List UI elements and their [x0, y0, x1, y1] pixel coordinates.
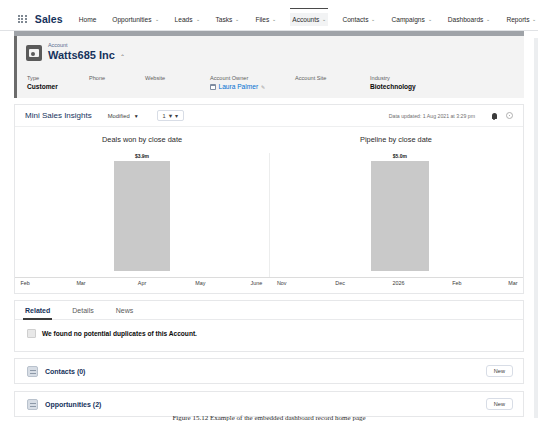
- nav-item-label: Tasks: [216, 16, 233, 23]
- insights-filter-button[interactable]: 1 ▼ ▾: [157, 110, 185, 121]
- x-tick: Mar: [76, 280, 85, 286]
- page-title: Watts685 Inc ⌃: [48, 49, 125, 64]
- field-value: Biotechnology: [370, 82, 460, 92]
- nav-item-label: Home: [79, 16, 97, 23]
- app-launcher-icon[interactable]: [18, 15, 27, 24]
- insights-title: Mini Sales Insights: [25, 111, 92, 120]
- nav-item-campaigns[interactable]: Campaigns ⌄: [389, 13, 433, 26]
- figure-caption: Figure 15.12 Example of the embedded das…: [0, 414, 538, 422]
- x-tick: Dec: [335, 280, 345, 286]
- chevron-down-icon: ▼: [134, 113, 139, 119]
- chart-pipeline-by-close-date[interactable]: Pipeline by close date $5.0m Nov Dec 202…: [269, 127, 523, 293]
- chevron-down-icon: ⌄: [322, 16, 326, 22]
- chevron-down-icon: ⌄: [371, 16, 375, 22]
- mini-sales-insights-panel: Mini Sales Insights Modified ▼ 1 ▼ ▾ Dat…: [14, 104, 524, 294]
- insights-sort-dropdown[interactable]: Modified ▼: [108, 113, 139, 119]
- record-highlight-fields: Type Customer Phone Website Account Owne…: [17, 64, 524, 92]
- chevron-down-icon: ⌄: [428, 16, 432, 22]
- insights-filter-count: 1: [163, 113, 166, 119]
- nav-item-reports[interactable]: Reports ⌄: [504, 13, 538, 26]
- bar-value-label: $3.9m: [114, 153, 170, 159]
- bell-icon[interactable]: [488, 110, 500, 122]
- nav-item-opportunities[interactable]: Opportunities ⌄: [110, 13, 160, 26]
- tab-label: Details: [72, 307, 93, 314]
- pencil-icon[interactable]: ✎: [261, 82, 265, 92]
- bar-2026[interactable]: $5.0m: [371, 161, 429, 271]
- nav-item-label: Contacts: [342, 16, 368, 23]
- tab-related[interactable]: Related: [25, 301, 50, 320]
- nav-item-leads[interactable]: Leads ⌄: [173, 13, 202, 26]
- x-tick: Feb: [21, 280, 30, 286]
- chart-title: Deals won by close date: [15, 135, 269, 144]
- field-label: Account Site: [295, 74, 370, 82]
- field-label: Type: [27, 74, 89, 82]
- x-tick: Apr: [138, 280, 146, 286]
- x-tick: Nov: [277, 280, 287, 286]
- account-owner-name[interactable]: Laura Palmer: [219, 82, 259, 92]
- nav-item-files[interactable]: Files ⌄: [253, 13, 278, 26]
- bar-apr[interactable]: $3.9m: [114, 161, 170, 271]
- chevron-down-icon: ▾: [175, 113, 178, 119]
- account-icon: [26, 45, 42, 61]
- field-label: Account Owner: [210, 74, 295, 82]
- chevron-down-icon: ⌄: [532, 16, 536, 22]
- field-type: Type Customer: [27, 74, 89, 92]
- tab-news[interactable]: News: [116, 301, 134, 320]
- record-header-top: Account Watts685 Inc ⌃: [17, 36, 524, 64]
- field-value: Customer: [27, 82, 89, 92]
- chevron-down-icon: ⌄: [486, 16, 490, 22]
- related-list-title[interactable]: Contacts (0): [45, 368, 85, 375]
- field-phone: Phone: [89, 74, 145, 92]
- axis-line: [15, 277, 269, 278]
- app-name[interactable]: Sales: [35, 13, 63, 25]
- nav-item-label: Dashboards: [448, 16, 484, 23]
- x-tick: June: [250, 280, 262, 286]
- nav-item-contacts[interactable]: Contacts ⌄: [340, 13, 377, 26]
- nav-item-home[interactable]: Home: [77, 13, 99, 26]
- record-type-label: Account: [48, 42, 125, 49]
- screenshot-root: Sales Home Opportunities ⌄ Leads ⌄ Tasks…: [0, 0, 538, 428]
- field-website: Website: [145, 74, 210, 92]
- nav-item-accounts[interactable]: Accounts ⌄: [290, 13, 328, 26]
- nav-item-label: Opportunities: [112, 16, 151, 23]
- chart-title: Pipeline by close date: [269, 135, 523, 144]
- field-label: Website: [145, 74, 210, 82]
- insights-header: Mini Sales Insights Modified ▼ 1 ▼ ▾ Dat…: [15, 105, 523, 127]
- field-account-site: Account Site: [295, 74, 370, 92]
- nav-item-label: Files: [255, 16, 269, 23]
- filter-icon: ▼: [168, 113, 174, 119]
- x-tick: Feb: [452, 280, 461, 286]
- nav-item-tasks[interactable]: Tasks ⌄: [214, 13, 242, 26]
- gear-icon[interactable]: [503, 110, 515, 122]
- record-name: Watts685 Inc: [48, 49, 115, 62]
- chart-x-axis: Nov Dec 2026 Feb Mar: [269, 277, 523, 289]
- user-badge-icon: [210, 84, 216, 90]
- duplicate-check-icon: [27, 329, 36, 338]
- nav-item-label: Leads: [175, 16, 193, 23]
- chevron-down-icon: ⌄: [155, 16, 159, 22]
- bar-value-label: $5.0m: [371, 153, 429, 159]
- tab-details[interactable]: Details: [72, 301, 93, 320]
- related-list-title[interactable]: Opportunities (2): [45, 401, 101, 408]
- new-contact-button[interactable]: New: [486, 365, 513, 377]
- duplicate-check-message: We found no potential duplicates of this…: [42, 330, 197, 337]
- insights-sort-label: Modified: [108, 113, 130, 119]
- related-list-contacts[interactable]: Contacts (0) New: [14, 358, 524, 384]
- nav-item-label: Reports: [506, 16, 529, 23]
- field-value[interactable]: Laura Palmer ✎: [210, 82, 295, 92]
- x-tick: May: [195, 280, 205, 286]
- nav-item-label: Campaigns: [391, 16, 424, 23]
- chevron-down-icon: ⌄: [196, 16, 200, 22]
- chart-x-axis: Feb Mar Apr May June: [15, 277, 269, 289]
- field-industry: Industry Biotechnology: [370, 74, 460, 92]
- field-label: Industry: [370, 74, 460, 82]
- page-scrollbar[interactable]: [534, 38, 538, 418]
- tab-label: Related: [25, 307, 50, 314]
- chart-deals-won-by-close-date[interactable]: Deals won by close date $3.9m Feb Mar Ap…: [15, 127, 269, 293]
- x-tick: 2026: [393, 280, 405, 286]
- global-navigation-bar: Sales Home Opportunities ⌄ Leads ⌄ Tasks…: [0, 8, 538, 30]
- new-opportunity-button[interactable]: New: [486, 398, 513, 410]
- contacts-icon: [27, 366, 38, 377]
- chevron-up-icon[interactable]: ⌃: [120, 51, 125, 64]
- nav-item-dashboards[interactable]: Dashboards ⌄: [446, 13, 493, 26]
